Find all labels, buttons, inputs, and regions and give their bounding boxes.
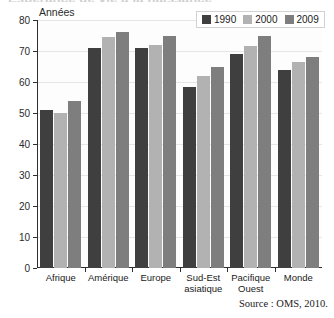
x-axis-labels: AfriqueAmériqueEuropeSud-EstasiatiquePac…: [37, 272, 322, 294]
legend-swatch: [202, 15, 211, 24]
legend-swatch: [243, 15, 252, 24]
bar-group: [275, 20, 323, 268]
bar-group: [37, 20, 85, 268]
x-axis-label: Europe: [132, 272, 180, 294]
legend-label: 2009: [297, 14, 319, 25]
y-tick-label: 0: [24, 263, 30, 274]
bar: [230, 54, 243, 268]
bar: [244, 46, 257, 268]
y-tick-label: 40: [19, 139, 30, 150]
bar: [292, 62, 305, 268]
legend-item: 2009: [285, 14, 319, 25]
legend-item: 2000: [243, 14, 277, 25]
bar-group: [180, 20, 228, 268]
y-tick-label: 20: [19, 201, 30, 212]
bar: [306, 57, 319, 268]
y-axis-label: Années: [39, 6, 75, 18]
y-tick-label: 80: [19, 15, 30, 26]
bar: [183, 87, 196, 268]
bar-group: [85, 20, 133, 268]
x-axis-label: Monde: [275, 272, 323, 294]
bar: [149, 45, 162, 268]
legend-swatch: [285, 15, 294, 24]
y-tick-label: 30: [19, 170, 30, 181]
bar: [258, 36, 271, 269]
bar: [68, 101, 81, 268]
bar: [88, 48, 101, 268]
bar: [197, 76, 210, 268]
bar: [54, 113, 67, 268]
y-tick-mark: [33, 268, 37, 269]
x-axis-label: PacifiqueOuest: [227, 272, 275, 294]
x-axis-label: Afrique: [37, 272, 85, 294]
legend: 199020002009: [196, 11, 325, 28]
bar: [102, 37, 115, 268]
bar-groups: [37, 20, 322, 268]
bar: [135, 48, 148, 268]
source-note: Source : OMS, 2010.: [239, 298, 328, 309]
bar: [211, 67, 224, 269]
legend-label: 1990: [214, 14, 236, 25]
x-axis-label: Amérique: [85, 272, 133, 294]
bar-group: [132, 20, 180, 268]
bar-group: [227, 20, 275, 268]
figure-title-cutoff: Espérance de vie à la naissance: [8, 0, 212, 2]
y-tick-label: 70: [19, 46, 30, 57]
bar: [116, 32, 129, 268]
bar: [163, 36, 176, 269]
bar: [40, 110, 53, 268]
x-axis-label: Sud-Estasiatique: [180, 272, 228, 294]
bar: [278, 70, 291, 268]
chart-figure: Espérance de vie à la naissance Années 0…: [0, 0, 334, 318]
legend-item: 1990: [202, 14, 236, 25]
y-tick-label: 60: [19, 77, 30, 88]
y-tick-label: 10: [19, 232, 30, 243]
plot-area: 01020304050607080: [37, 20, 322, 268]
y-tick-label: 50: [19, 108, 30, 119]
legend-label: 2000: [255, 14, 277, 25]
